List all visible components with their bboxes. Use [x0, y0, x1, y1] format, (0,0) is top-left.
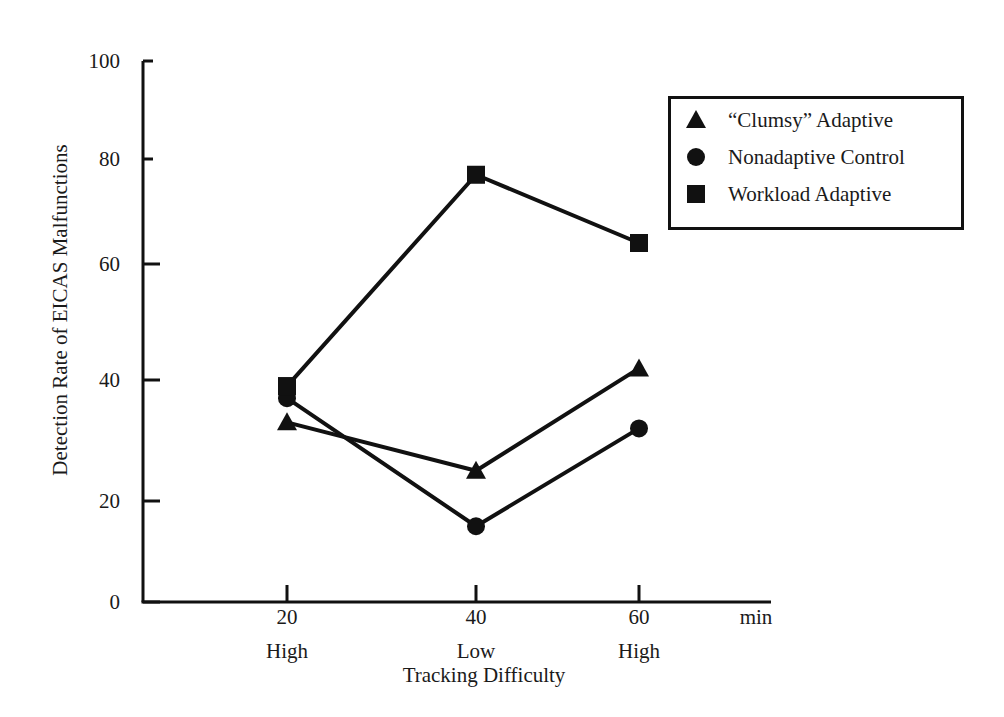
- series-square: [278, 166, 648, 395]
- y-tick-label: 40: [99, 368, 120, 392]
- y-tick-label: 60: [99, 252, 120, 276]
- square-marker: [278, 377, 296, 395]
- series-circle: [278, 389, 648, 535]
- square-marker: [687, 185, 705, 203]
- legend: “Clumsy” AdaptiveNonadaptive ControlWork…: [670, 98, 963, 229]
- circle-marker: [687, 148, 705, 166]
- x-axis-title: Tracking Difficulty: [403, 663, 566, 687]
- x-tick-label: 60: [629, 605, 650, 629]
- x-difficulty-label: Low: [457, 639, 496, 663]
- legend-label: Nonadaptive Control: [728, 145, 905, 169]
- legend-label: “Clumsy” Adaptive: [728, 108, 893, 132]
- series-triangle: [277, 358, 649, 478]
- y-tick-label: 20: [99, 489, 120, 513]
- x-axis: 20High40Low60High: [142, 585, 772, 663]
- y-tick-label: 100: [89, 49, 121, 73]
- x-difficulty-label: High: [266, 639, 309, 663]
- series-layer: [277, 166, 649, 536]
- legend-label: Workload Adaptive: [728, 182, 891, 206]
- triangle-marker: [277, 412, 297, 430]
- circle-marker: [630, 419, 648, 437]
- x-tick-label: 20: [277, 605, 298, 629]
- y-axis-title: Detection Rate of EICAS Malfunctions: [48, 144, 72, 475]
- square-marker: [630, 234, 648, 252]
- line-chart: 020406080100 20High40Low60High “Clumsy” …: [0, 0, 1004, 717]
- x-axis-unit: min: [740, 605, 773, 629]
- x-difficulty-label: High: [618, 639, 661, 663]
- x-tick-label: 40: [466, 605, 487, 629]
- square-marker: [467, 166, 485, 184]
- y-axis: 020406080100: [89, 49, 161, 614]
- triangle-marker: [629, 358, 649, 376]
- y-tick-label: 0: [110, 590, 121, 614]
- circle-marker: [467, 517, 485, 535]
- y-tick-label: 80: [99, 147, 120, 171]
